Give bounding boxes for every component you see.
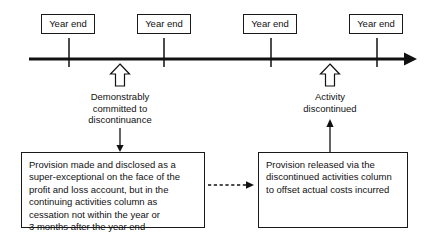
dashed-link-between-notes — [208, 181, 254, 189]
down-arrow-to-provision-made — [116, 128, 123, 152]
note-line: to offset actual costs incurred — [266, 184, 400, 196]
callout-line: committed to — [60, 103, 180, 115]
callout-line: discontinued — [272, 103, 388, 115]
provision-made-note: Provision made and disclosed as a super-… — [21, 152, 205, 228]
note-line: 3 months after the year end — [29, 221, 197, 233]
note-line: Provision released via the — [266, 159, 400, 171]
callout-line: discontinuance — [60, 114, 180, 126]
hollow-up-arrow-icon-right — [321, 64, 340, 86]
note-line: super-exceptional on the face of the — [29, 171, 197, 183]
callout-line: Activity — [272, 91, 388, 103]
year-end-box-1: Year end — [41, 14, 95, 34]
year-end-box-4: Year end — [349, 14, 403, 34]
year-end-box-2: Year end — [137, 14, 191, 34]
callout-activity-discontinued: Activity discontinued — [272, 91, 388, 114]
timeline-diagram: Year end Year end Year end Year end Demo… — [0, 0, 438, 242]
axis-arrowhead-icon — [404, 53, 417, 66]
time-axis — [29, 53, 417, 66]
callout-line: Demonstrably — [60, 91, 180, 103]
year-end-label: Year end — [49, 19, 87, 29]
callout-demonstrably-committed: Demonstrably committed to discontinuance — [60, 91, 180, 126]
note-line: continuing activities column as — [29, 196, 197, 208]
year-end-label: Year end — [357, 19, 395, 29]
year-end-label: Year end — [251, 19, 289, 29]
year-end-box-3: Year end — [243, 14, 297, 34]
note-line: profit and loss account, but in the — [29, 184, 197, 196]
note-line: Provision made and disclosed as a — [29, 159, 197, 171]
note-line: discontinued activities column — [266, 171, 400, 183]
year-end-ticks — [69, 38, 377, 67]
up-arrow-from-provision-released — [326, 119, 333, 152]
provision-released-note: Provision released via the discontinued … — [258, 152, 408, 228]
hollow-up-arrow-icon-left — [111, 64, 130, 86]
note-line: cessation not within the year or — [29, 209, 197, 221]
year-end-label: Year end — [145, 19, 183, 29]
